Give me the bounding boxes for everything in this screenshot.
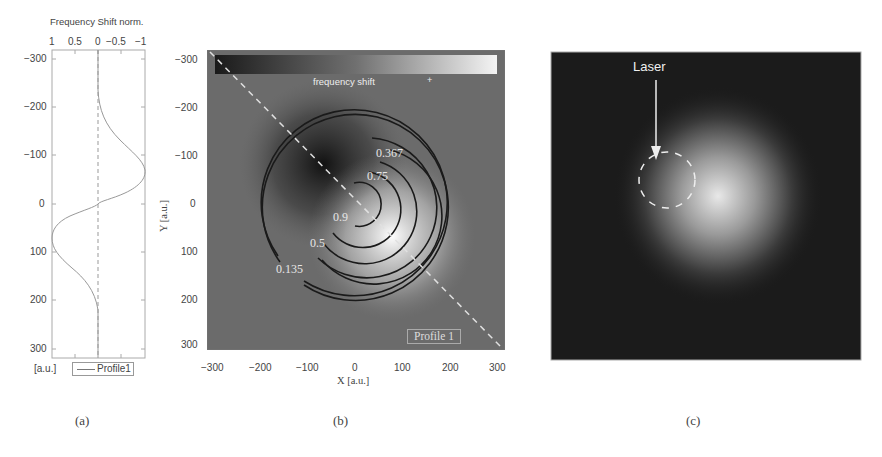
caption-b: (b) [333, 413, 348, 429]
caption-a: (a) [75, 413, 89, 429]
panel-c-image [0, 0, 882, 457]
caption-c: (c) [686, 413, 700, 429]
laser-annotation: Laser [633, 59, 666, 74]
